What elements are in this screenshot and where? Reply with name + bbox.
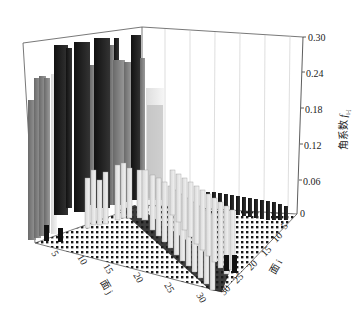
3d-bar-chart: 0.30 0.24 0.18 0.12 0.06 0 角系数 fi-j 5 10… bbox=[0, 0, 364, 323]
z-axis: 0.30 0.24 0.18 0.12 0.06 0 角系数 fi-j bbox=[297, 32, 351, 219]
x-tick-label: 25 bbox=[162, 281, 177, 295]
z-tick-label: 0.30 bbox=[308, 32, 326, 43]
z-tick-label: 0.12 bbox=[304, 140, 322, 151]
x-tick-label: 5 bbox=[49, 249, 61, 259]
x-tick-label: 20 bbox=[131, 271, 146, 285]
z-axis-title: 角系数 fi-j bbox=[337, 109, 351, 150]
x-tick-label: 30 bbox=[194, 291, 209, 305]
x-axis-title: 面 j bbox=[98, 278, 115, 297]
z-tick-label: 0.24 bbox=[306, 68, 324, 79]
z-tick-label: 0 bbox=[300, 208, 305, 219]
z-tick-label: 0.06 bbox=[303, 176, 321, 187]
z-tick-label: 0.18 bbox=[305, 104, 323, 115]
y-axis-title: 面 i bbox=[267, 257, 284, 276]
